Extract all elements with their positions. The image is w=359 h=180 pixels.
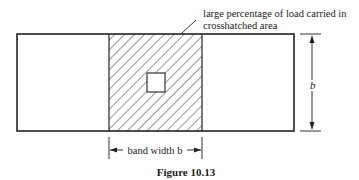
slab-diagram: large percentage of load carried in cros… (0, 0, 359, 180)
load-square (147, 73, 165, 92)
figure-caption: Figure 10.13 (157, 166, 216, 178)
leader-line (181, 20, 196, 34)
annotation-line2: crosshatched area (203, 20, 278, 31)
annotation-line1: large percentage of load carried in (203, 8, 347, 19)
band-width-label: band width b (128, 145, 183, 156)
dimension-b-label: b (310, 79, 316, 91)
figure: large percentage of load carried in cros… (0, 0, 359, 180)
